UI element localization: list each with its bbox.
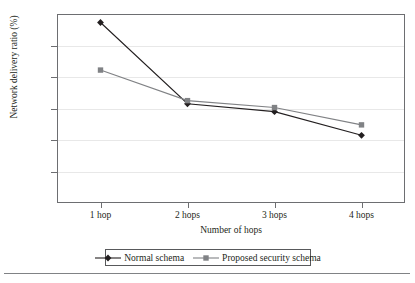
data-point-marker — [359, 122, 364, 127]
series-line — [101, 23, 362, 136]
data-point-marker — [358, 132, 365, 139]
square-marker-icon — [193, 253, 219, 263]
bottom-divider — [4, 273, 410, 274]
diamond-marker-icon — [95, 253, 121, 263]
chart-figure: 100908070605040 Network delivery ratio (… — [0, 0, 415, 283]
series-line — [101, 70, 362, 125]
legend-entry-2[interactable]: Proposed security schema — [193, 253, 321, 263]
data-point-marker — [272, 105, 277, 110]
series-2 — [98, 67, 364, 127]
series-1 — [97, 19, 365, 139]
chart-legend: Normal schemaProposed security schema — [105, 249, 311, 266]
legend-label: Normal schema — [124, 253, 184, 263]
legend-entry-1[interactable]: Normal schema — [95, 253, 184, 263]
legend-label: Proposed security schema — [222, 253, 321, 263]
data-point-marker — [98, 67, 103, 72]
data-point-marker — [185, 98, 190, 103]
series-layer — [0, 0, 415, 283]
